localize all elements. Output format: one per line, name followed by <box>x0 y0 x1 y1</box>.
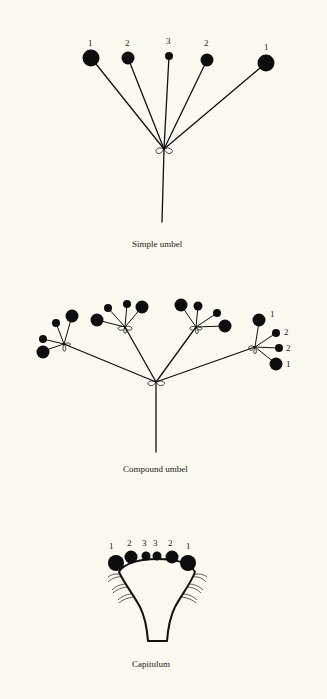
bract <box>156 381 164 386</box>
floret-order-label: 3 <box>153 538 158 548</box>
compound-umbel-caption: Compound umbel <box>123 464 188 474</box>
capitulum-figure: 1 2 3 3 2 1 Capitulum <box>108 538 207 669</box>
floret-outer <box>180 555 196 571</box>
floret-middle <box>125 551 138 564</box>
flower-order-label: 2 <box>284 327 289 337</box>
peduncle <box>162 149 164 222</box>
flower-outer <box>175 299 188 312</box>
pedicel <box>92 59 164 149</box>
involucral-bract <box>113 587 128 593</box>
primary-ray <box>64 344 156 382</box>
pedicel <box>128 58 164 149</box>
flower-order-label: 1 <box>264 42 269 52</box>
flower-inner <box>275 344 283 352</box>
primary-ray <box>156 327 196 382</box>
umbellet <box>175 299 232 334</box>
floret-inner <box>142 552 151 561</box>
involucral-bract <box>182 597 196 603</box>
floret-middle <box>166 551 179 564</box>
floret-order-label: 3 <box>142 538 147 548</box>
involucral-bract <box>119 597 133 603</box>
floret-order-label: 2 <box>168 538 173 548</box>
flower-outer <box>83 50 100 67</box>
flower-order-label: 3 <box>166 36 171 46</box>
capitulum-caption: Capitulum <box>132 659 170 669</box>
flower-inner <box>52 319 60 327</box>
flower-outer <box>270 358 283 371</box>
flower-inner <box>194 302 203 311</box>
flower-outer <box>91 314 104 327</box>
pedicel <box>164 60 207 149</box>
flower-inner <box>123 300 131 308</box>
primary-ray <box>125 327 156 382</box>
umbellet-labelled: 1 2 2 1 <box>249 309 291 371</box>
flower-outer <box>37 346 50 359</box>
floret-outer <box>108 555 124 571</box>
floret-order-label: 1 <box>186 541 191 551</box>
flower-outer <box>253 314 266 327</box>
bract <box>148 381 156 386</box>
primary-ray <box>156 347 255 382</box>
flower-outer <box>66 310 79 323</box>
flower-inner <box>272 329 280 337</box>
involucral-bract <box>187 587 201 593</box>
receptacle <box>119 559 195 641</box>
simple-umbel-figure: 1 2 3 2 1 Simple umbel <box>83 36 275 249</box>
floret-order-label: 1 <box>109 541 114 551</box>
pedicel <box>164 56 169 149</box>
flower-inner <box>213 309 221 317</box>
bract <box>164 148 172 153</box>
flower-outer <box>219 320 232 333</box>
compound-umbel-figure: 1 2 2 1 Compound umbel <box>37 299 291 475</box>
flower-order-label: 2 <box>125 38 130 48</box>
flower-inner <box>39 335 47 343</box>
floret-inner <box>153 552 162 561</box>
pedicel <box>164 63 266 149</box>
flower-outer <box>258 55 275 72</box>
flower-middle <box>122 52 135 65</box>
flower-middle <box>201 54 214 67</box>
flower-order-label: 1 <box>88 38 93 48</box>
flower-inner <box>165 52 173 60</box>
flower-order-label: 1 <box>270 309 275 319</box>
flower-order-label: 2 <box>286 343 291 353</box>
umbellet <box>91 300 149 333</box>
simple-umbel-caption: Simple umbel <box>132 239 183 249</box>
flower-order-label: 1 <box>286 359 291 369</box>
floret-order-label: 2 <box>127 538 132 548</box>
flower-outer <box>136 301 149 314</box>
flower-inner <box>104 304 112 312</box>
bract <box>156 148 164 154</box>
umbellet <box>37 310 79 359</box>
flower-order-label: 2 <box>204 38 209 48</box>
